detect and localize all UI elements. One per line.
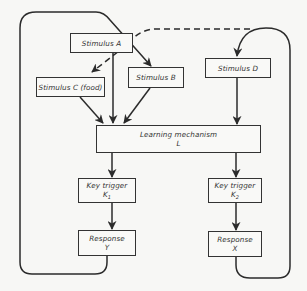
key-trigger-2-symbol: K2 [231,190,239,201]
response-y-box: Response Y [78,230,136,256]
key-trigger-2-label: Key trigger [215,181,256,190]
stimulus-a-label: Stimulus A [82,39,121,48]
stimulus-c-box: Stimulus C (food) [36,77,105,97]
key-trigger-1-box: Key trigger K1 [78,178,136,203]
key-trigger-1-label: Key trigger [87,181,128,190]
response-x-symbol: X [232,244,237,253]
stimulus-d-box: Stimulus D [205,58,271,78]
response-y-symbol: Y [105,243,110,252]
stimulus-b-box: Stimulus B [128,67,184,88]
response-y-label: Response [89,234,125,243]
diagram-canvas: Stimulus A Stimulus B Stimulus C (food) … [0,0,307,291]
response-x-label: Response [217,235,253,244]
learning-mechanism-box: Learning mechanism L [96,125,261,153]
stimulus-d-label: Stimulus D [218,64,258,73]
key-trigger-1-symbol: K1 [103,190,111,201]
stimulus-b-label: Stimulus B [136,73,175,82]
arrow-c-to-learning [80,97,103,123]
stimulus-a-box: Stimulus A [70,33,133,53]
learning-mechanism-symbol: L [176,139,180,148]
arrow-b-to-learning [124,88,150,123]
key-trigger-2-box: Key trigger K2 [208,178,262,203]
response-x-box: Response X [208,231,262,257]
stimulus-c-label: Stimulus C (food) [38,83,102,92]
learning-mechanism-label: Learning mechanism [140,130,217,139]
